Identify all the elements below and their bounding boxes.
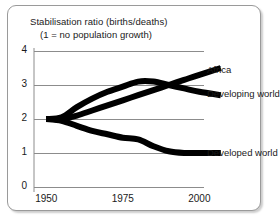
series-lines [46,68,221,153]
x-tick-label: 2000 [183,193,215,204]
y-tick-label: 1 [15,146,27,157]
series-label-developed-world: Developed world [207,147,271,158]
series-label-developing-world: Developing world [207,88,271,99]
series-label-africa: Africa [207,64,231,75]
x-tick-label: 1975 [107,193,139,204]
y-tick-label: 0 [15,180,27,191]
y-tick-label: 4 [15,44,27,55]
series-line-developed-world [46,119,221,153]
series-line-developing-world [46,81,221,119]
y-tick-label: 2 [15,112,27,123]
chart-svg [8,6,262,212]
chart-figure: Stabilisation ratio (births/deaths) (1 =… [7,5,261,211]
y-tick-label: 3 [15,78,27,89]
plot-area [8,6,262,212]
x-tick-label: 1950 [30,193,62,204]
